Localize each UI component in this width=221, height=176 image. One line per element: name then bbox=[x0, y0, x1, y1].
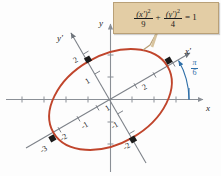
term-x-prime-fraction: (x')2 9 bbox=[134, 8, 152, 29]
y-axis-label: y bbox=[99, 19, 103, 28]
equation-callout: (x')2 9 + (y')2 4 = 1 bbox=[113, 2, 219, 34]
equation-text: (x')2 9 + (y')2 4 = 1 bbox=[133, 8, 198, 29]
x-prime-axis bbox=[26, 53, 190, 148]
x-axis bbox=[6, 97, 203, 103]
y-prime-numerator: (y')2 bbox=[164, 8, 182, 18]
term-y-prime-fraction: (y')2 4 bbox=[164, 8, 182, 29]
plus-operator: + bbox=[156, 13, 161, 22]
y-prime-denominator: 4 bbox=[169, 20, 177, 29]
callout-leader bbox=[143, 32, 157, 50]
y-prime-axis-label: y' bbox=[57, 34, 63, 43]
x-prime-numerator: (x')2 bbox=[134, 8, 152, 18]
figure-canvas: (x')2 9 + (y')2 4 = 1 x y x' y' 2 1 -1 -… bbox=[0, 0, 221, 176]
x-prime-axis-label: x' bbox=[185, 47, 191, 56]
x-axis-label: x bbox=[206, 104, 210, 113]
angle-arc bbox=[179, 61, 190, 100]
angle-numerator: π bbox=[191, 59, 197, 67]
x-prime-denominator: 9 bbox=[139, 20, 147, 29]
angle-label: π 6 bbox=[191, 59, 198, 77]
angle-denominator: 6 bbox=[192, 69, 198, 77]
equals-one: = 1 bbox=[185, 13, 197, 22]
